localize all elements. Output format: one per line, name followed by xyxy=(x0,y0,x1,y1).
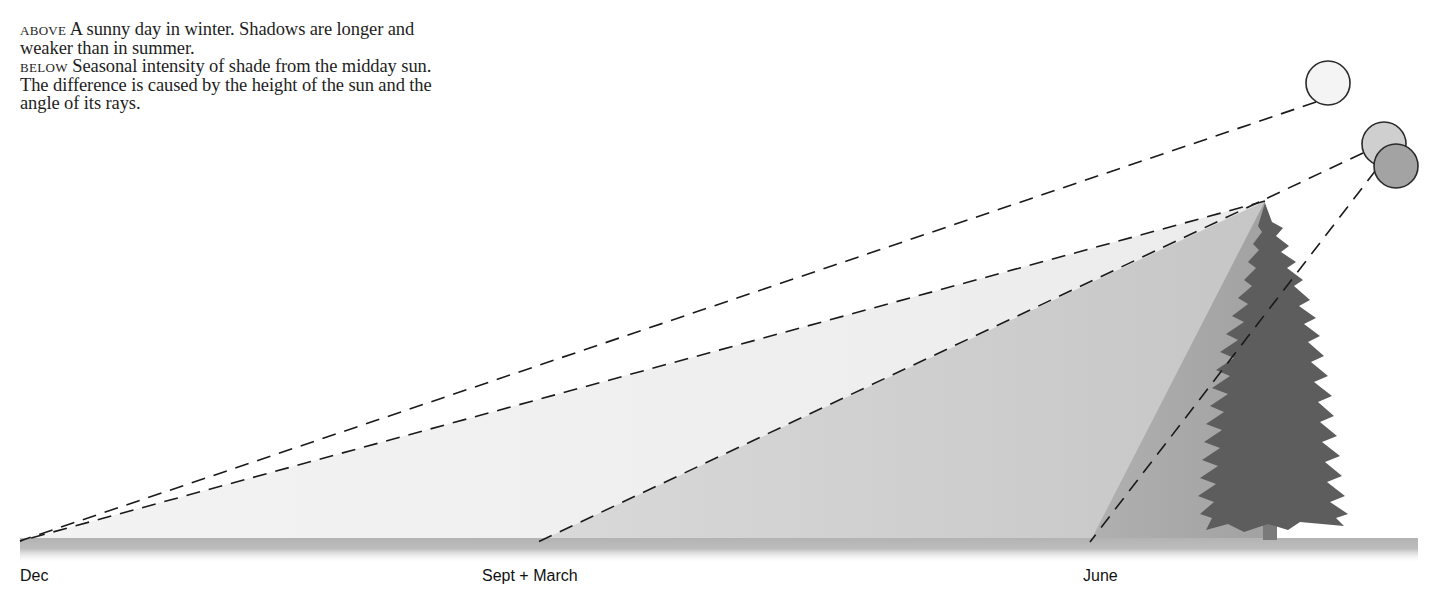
label-sept-march: Sept + March xyxy=(482,567,578,585)
summer-sun-icon xyxy=(1374,144,1418,188)
label-june: June xyxy=(1083,567,1118,585)
caption-above-text: A sunny day in winter. Shadows are longe… xyxy=(20,19,414,58)
label-dec: Dec xyxy=(20,567,48,585)
caption-above-lead: ABOVE xyxy=(20,19,66,39)
ground-strip xyxy=(20,538,1418,562)
caption-below-lead: BELOW xyxy=(20,56,68,76)
winter-sun-icon xyxy=(1306,61,1350,105)
figure-caption: ABOVE A sunny day in winter. Shadows are… xyxy=(20,20,450,113)
caption-below-text: Seasonal intensity of shade from the mid… xyxy=(20,56,432,113)
